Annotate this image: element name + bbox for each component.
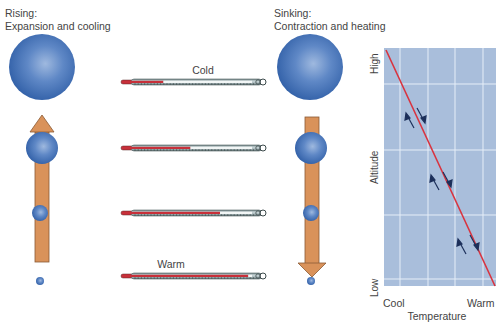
- thermometer: [121, 273, 266, 279]
- y-tick-low: Low: [369, 278, 380, 297]
- thermometers: [121, 79, 266, 279]
- x-axis-label: Temperature: [408, 310, 467, 322]
- thermometer: [121, 210, 266, 216]
- x-tick-cool: Cool: [383, 297, 405, 309]
- altitude-temperature-graph: High Altitude Low Cool Warm Temperature: [369, 48, 496, 322]
- y-tick-high: High: [369, 53, 380, 74]
- x-tick-warm: Warm: [467, 297, 495, 309]
- parcel-large: [277, 34, 343, 100]
- thermometer: [121, 145, 266, 151]
- thermometer-label-warm: Warm: [157, 258, 185, 270]
- parcel-medium: [295, 132, 327, 164]
- rising-column: [9, 34, 75, 285]
- parcel-small: [303, 205, 319, 221]
- parcel-large: [9, 34, 75, 100]
- sinking-column: [277, 34, 343, 285]
- parcel-medium: [26, 132, 58, 164]
- parcel-small: [32, 205, 48, 221]
- y-axis-label: Altitude: [369, 150, 380, 184]
- thermometer-label-cold: Cold: [192, 64, 214, 76]
- thermometer: [121, 79, 266, 85]
- parcel-tiny: [307, 277, 315, 285]
- parcel-tiny: [36, 277, 44, 285]
- lapse-rate-diagram: Cold Warm High: [0, 0, 499, 324]
